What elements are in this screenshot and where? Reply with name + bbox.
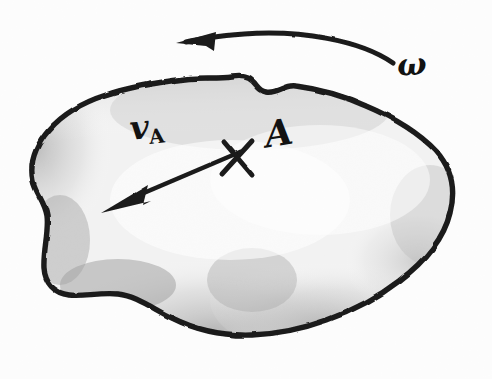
figure-canvas: vA A ω — [0, 0, 492, 379]
angular-velocity-label: ω — [396, 48, 428, 81]
velocity-label: vA — [128, 108, 165, 149]
point-label: A — [262, 113, 295, 153]
velocity-subscript: A — [148, 124, 166, 149]
